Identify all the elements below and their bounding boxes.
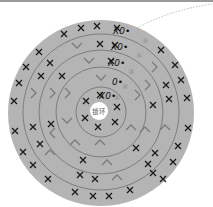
start-marker-round-3: X0•: [107, 58, 125, 68]
center-label: 锁环: [92, 107, 106, 116]
round-number-3: ③: [128, 68, 134, 76]
leader-line: [137, 4, 212, 28]
round-number-4: ④: [136, 52, 142, 60]
crochet-chart: 锁环: [0, 0, 213, 207]
round-number-5: ⑤: [142, 37, 148, 45]
start-marker-round-4: X0•: [110, 42, 128, 52]
round-number-2: ②: [122, 83, 128, 91]
start-marker-round-5: X0•: [112, 26, 130, 36]
round-number-1: ①: [114, 94, 120, 102]
